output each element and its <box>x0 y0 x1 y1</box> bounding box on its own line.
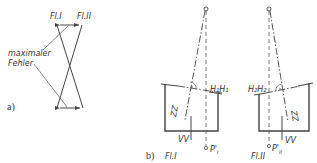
label-p2: P'II <box>272 144 283 155</box>
part-a-diagram <box>34 25 83 108</box>
label-fehler: Fehler <box>8 59 34 68</box>
label-fl1-a: Fl.I <box>50 12 62 21</box>
right-angle-dot <box>191 86 193 88</box>
container-box <box>259 83 309 131</box>
level-line-left <box>161 84 178 86</box>
caption-fl1: Fl.I <box>165 152 177 161</box>
right-angle-dot <box>279 88 281 90</box>
leader-bottom <box>34 64 67 107</box>
label-p1: P'I <box>210 145 219 155</box>
label-h2h2: H₂H₂ <box>248 85 267 94</box>
point-p1-circle <box>204 146 207 149</box>
sight-point-circle <box>204 7 208 11</box>
axis-zz-line <box>270 11 288 122</box>
part-b-left-diagram <box>161 7 222 150</box>
label-fl2-a: Fl.II <box>77 12 92 21</box>
label-part-a: a) <box>7 101 15 113</box>
surveying-diagram: Fl.I Fl.II maximaler Fehler a) ZZ H₁H₁ V… <box>0 0 317 163</box>
label-h1h1: H₁H₁ <box>210 85 228 94</box>
point-p2-circle <box>267 144 270 147</box>
axis-zz-line <box>185 11 205 120</box>
sight-point-circle <box>267 7 271 11</box>
leader-top <box>43 26 68 50</box>
label-vv-right: VV <box>285 136 296 145</box>
part-b-right-diagram <box>254 7 313 148</box>
label-vv-left: VV <box>178 135 189 144</box>
label-zz-right: ZZ <box>289 109 300 123</box>
caption-fl2: Fl.II <box>251 152 266 161</box>
label-part-b: b) <box>146 150 154 162</box>
label-zz-left: ZZ <box>169 104 180 118</box>
level-line-right <box>298 83 313 86</box>
label-maximaler: maximaler <box>8 49 51 58</box>
